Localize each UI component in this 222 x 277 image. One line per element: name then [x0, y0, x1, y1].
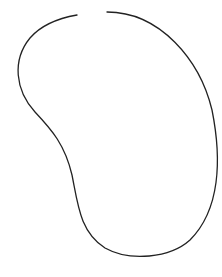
drawing-canvas — [0, 0, 222, 277]
bean-shaped-curve — [18, 12, 217, 256]
